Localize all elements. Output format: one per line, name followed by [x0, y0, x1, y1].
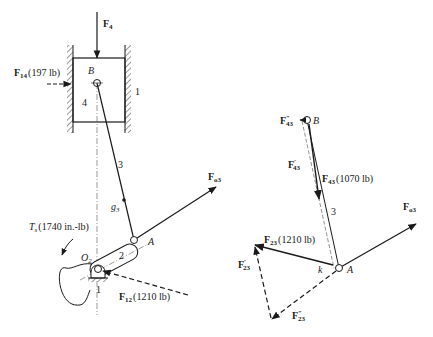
label-A-right: A [346, 264, 354, 275]
label-F43-prime: F′43 [288, 158, 301, 172]
label-F23-prime: F′23 [238, 258, 251, 272]
label-link-2: 2 [119, 250, 124, 261]
label-F23-dprime: F″23 [292, 309, 305, 323]
label-A: A [147, 236, 155, 247]
label-g3: g3 [111, 201, 120, 214]
label-F14: F14(197 lb) [14, 67, 60, 80]
label-B-right: B [313, 115, 319, 126]
pin-O2 [95, 266, 102, 273]
label-O2: O2 [81, 252, 92, 265]
diagram-canvas: F4 F14(197 lb) B 4 1 3 g3 Fo3 A 2 O2 [0, 0, 433, 337]
label-F12: F12(1210 lb) [119, 291, 170, 304]
label-Ts: Ts(1740 in.-lb) [29, 221, 89, 234]
label-frame-1: 1 [135, 86, 140, 97]
pin-A [131, 237, 138, 244]
force-F23-arrow [255, 245, 333, 265]
force-Fo3-arrow-left [134, 187, 216, 240]
label-ground-1: 1 [96, 284, 101, 295]
label-F43: F43(1070 lb) [322, 173, 373, 186]
force-F23-prime-arrow [255, 247, 271, 318]
pin-B-right [304, 117, 311, 124]
force-Fo3-arrow-right [339, 224, 416, 268]
label-Fo3-right: Fo3 [403, 201, 417, 214]
label-F23: F23(1210 lb) [264, 234, 315, 247]
crank-body [59, 264, 92, 305]
label-F43-dprime: F″43 [280, 114, 293, 128]
label-Fo3-left: Fo3 [208, 171, 222, 184]
pin-A-right [336, 265, 343, 272]
cylinder-wall-right [125, 45, 131, 133]
label-link-3: 3 [118, 159, 123, 170]
label-link-4: 4 [82, 97, 87, 108]
label-k: k [318, 264, 323, 275]
label-F4: F4 [103, 18, 113, 31]
right-figure: 3 B F″43 F43(1070 lb) F′43 Fo3 F23(1210 … [238, 114, 417, 323]
label-B: B [88, 65, 94, 76]
cylinder-wall-left [67, 45, 73, 133]
force-F23-dprime-arrow [272, 271, 336, 319]
force-F43-arrow [309, 124, 319, 199]
label-rod-3-right: 3 [331, 206, 336, 217]
torque-arrow [62, 239, 73, 255]
left-figure: F4 F14(197 lb) B 4 1 3 g3 Fo3 A 2 O2 [14, 12, 222, 315]
center-of-mass-g3 [122, 198, 126, 202]
